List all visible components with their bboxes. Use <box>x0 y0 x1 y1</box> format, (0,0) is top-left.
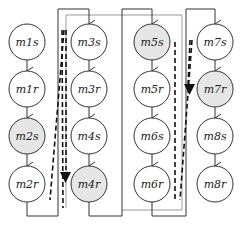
node-m6s: m6s <box>134 118 170 154</box>
node-m2r: m2r <box>9 166 45 202</box>
svg-text:m1r: m1r <box>16 83 39 96</box>
node-m5s: m5s <box>134 24 170 60</box>
svg-text:m2r: m2r <box>16 178 39 191</box>
node-m7r: m7r <box>197 71 233 107</box>
svg-text:m8s: m8s <box>203 130 226 143</box>
svg-text:m3r: m3r <box>78 83 101 96</box>
node-m2s: m2s <box>9 118 45 154</box>
nodes: m1s m1r m2s m2r m3s m3r m4s m4r m5s m5r … <box>9 24 233 202</box>
svg-text:m6r: m6r <box>141 178 164 191</box>
svg-text:m8r: m8r <box>204 178 227 191</box>
svg-text:m4r: m4r <box>78 178 101 191</box>
node-m1r: m1r <box>9 71 45 107</box>
dashed-arrowhead-m4r <box>60 172 71 183</box>
node-m4r: m4r <box>71 166 107 202</box>
node-m8r: m8r <box>197 166 233 202</box>
sequence-diagram: m1s m1r m2s m2r m3s m3r m4s m4r m5s m5r … <box>0 0 240 226</box>
svg-text:m2s: m2s <box>15 130 38 143</box>
node-m3r: m3r <box>71 71 107 107</box>
svg-text:m4s: m4s <box>77 130 100 143</box>
svg-text:m7r: m7r <box>204 83 227 96</box>
node-m3s: m3s <box>71 24 107 60</box>
svg-text:m5r: m5r <box>141 83 164 96</box>
svg-text:m6s: m6s <box>140 130 163 143</box>
node-m8s: m8s <box>197 118 233 154</box>
node-m1s: m1s <box>9 24 45 60</box>
node-m6r: m6r <box>134 166 170 202</box>
node-m5r: m5r <box>134 71 170 107</box>
svg-text:m5s: m5s <box>140 36 163 49</box>
svg-text:m1s: m1s <box>15 36 38 49</box>
node-m7s: m7s <box>197 24 233 60</box>
svg-text:m3s: m3s <box>77 36 100 49</box>
svg-text:m7s: m7s <box>203 36 226 49</box>
node-m4s: m4s <box>71 118 107 154</box>
